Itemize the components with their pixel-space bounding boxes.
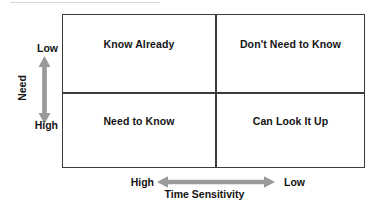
x-axis-title: Time Sensitivity — [0, 188, 385, 200]
quadrant-top-right: Don't Need to Know — [215, 15, 366, 92]
quadrant-bottom-right: Can Look It Up — [215, 92, 366, 169]
quadrant-bottom-right-label: Can Look It Up — [253, 115, 328, 127]
double-headed-horizontal-arrow-icon — [157, 175, 275, 189]
scan-artifact-line — [10, 2, 160, 3]
y-axis-title-text: Need — [16, 75, 28, 101]
x-axis-right-label: Low — [284, 176, 316, 188]
quadrant-top-left-label: Know Already — [104, 38, 175, 50]
matrix-grid: Know Already Don't Need to Know Need to … — [62, 14, 365, 168]
y-axis-title: Need — [4, 62, 40, 114]
x-axis-left-label: High — [122, 176, 154, 188]
quadrant-bottom-left: Need to Know — [63, 92, 215, 169]
quadrant-top-right-label: Don't Need to Know — [240, 38, 341, 50]
quadrant-bottom-left-label: Need to Know — [103, 115, 174, 127]
y-axis-top-label: Low — [0, 42, 58, 54]
y-axis-bottom-label: High — [0, 119, 58, 131]
x-axis-title-text: Time Sensitivity — [165, 188, 245, 200]
quadrant-top-left: Know Already — [63, 15, 215, 92]
quadrant-matrix-figure: Low Need High Know Already Don't Need to… — [0, 0, 385, 213]
